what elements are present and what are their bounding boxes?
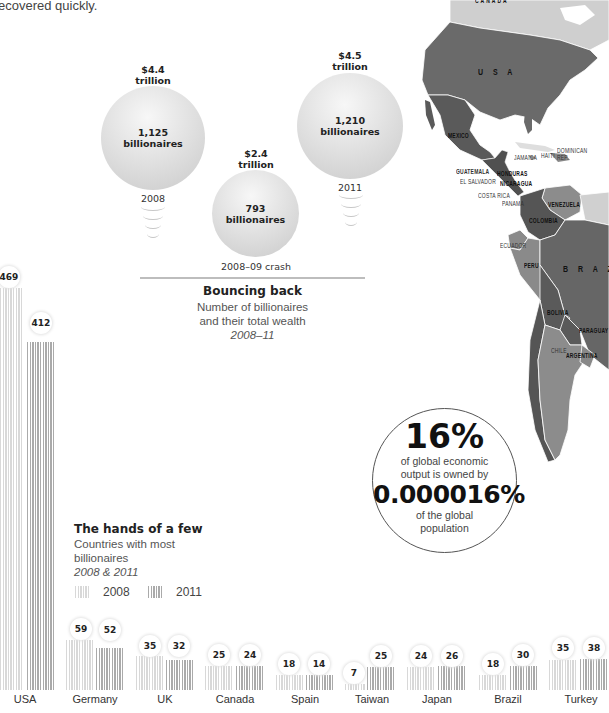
bar-canada-2008 (205, 666, 232, 690)
bubble-2011: 1,210 billionaires (297, 73, 403, 179)
bar-uk-2008 (136, 656, 163, 690)
map-label-brazil: B R A Z I L (563, 264, 609, 273)
badge-uk-2008: 35 (139, 635, 161, 657)
bar-turkey-2008 (549, 660, 576, 690)
label-brazil: Brazil (486, 693, 530, 705)
map-label-jamaica: JAMAICA (514, 153, 537, 161)
bouncing-back-caption: Bouncing back Number of billionaires and… (140, 284, 365, 342)
map-label-costa-rica: COSTA RICA (478, 191, 510, 199)
bubble-2008-wealth: $4.4 trillion (113, 64, 193, 86)
badge-usa-2008: 469 (0, 266, 20, 288)
bar-usa-2008 (0, 288, 22, 690)
badge-canada-2011: 24 (239, 644, 261, 666)
badge-japan-2011: 26 (441, 645, 463, 667)
bar-spain-2011 (306, 675, 333, 690)
map-label-panama: PANAMA (502, 199, 524, 207)
hands-caption: The hands of a few Countries with most b… (74, 522, 203, 579)
map-label-venezuela: VENEZUELA (548, 200, 580, 208)
badge-brazil-2011: 30 (512, 644, 534, 666)
map-label-el-salvador: EL SALVADOR (460, 177, 496, 185)
label-taiwan: Taiwan (350, 693, 394, 705)
map-label-haiti: HAITI (541, 151, 555, 159)
map-label-colombia: COLOMBIA (529, 216, 558, 224)
bar-taiwan-2008 (345, 684, 365, 690)
badge-germany-2011: 52 (99, 619, 121, 641)
badge-japan-2008: 24 (410, 645, 432, 667)
people-2008-icon (75, 586, 89, 598)
bar-canada-2011 (236, 666, 263, 690)
bar-japan-2011 (438, 666, 465, 690)
badge-spain-2008: 18 (278, 653, 300, 675)
map-label-dominican-rep: DOMINICAN REP. (557, 146, 587, 162)
bouncing-back-title: Bouncing back (140, 284, 365, 298)
label-canada: Canada (210, 693, 260, 705)
bubble-crash-year: 2008–09 crash (206, 261, 306, 272)
map-label-nicaragua: NICARAGUA (500, 179, 532, 187)
legend-2008: 2008 (75, 585, 130, 599)
intro-text: ecovered quickly. (0, 0, 97, 13)
bar-uk-2011 (166, 660, 193, 690)
badge-canada-2008: 25 (208, 644, 230, 666)
label-turkey: Turkey (556, 693, 606, 705)
bubble-crash: 793 billionaires (212, 170, 299, 257)
label-germany: Germany (66, 693, 124, 705)
map-label-argentina: ARGENTINA (566, 351, 598, 359)
bar-brazil-2008 (479, 675, 506, 690)
label-japan: Japan (415, 693, 459, 705)
label-usa: USA (0, 693, 50, 705)
baseline-divider (140, 277, 365, 279)
ripple-icon (141, 203, 165, 239)
legend-2011: 2011 (148, 585, 202, 599)
bar-turkey-2011 (580, 659, 607, 690)
bar-germany-2008 (66, 640, 93, 690)
stat-percent-population: 0.000016% (373, 481, 516, 509)
badge-brazil-2008: 18 (482, 653, 504, 675)
map-label-peru: PERU (524, 261, 539, 269)
badge-usa-2011: 412 (30, 312, 52, 334)
wealth-concentration-stat: 16% of global economic output is owned b… (372, 408, 517, 553)
bubble-crash-wealth: $2.4 trillion (216, 148, 296, 170)
badge-turkey-2011: 38 (583, 637, 605, 659)
map-label-canada: CANADA (475, 0, 509, 4)
label-uk: UK (145, 693, 185, 705)
americas-map: CANADA U S A MEXICO GUATEMALA HONDURAS E… (420, 0, 609, 470)
badge-germany-2008: 59 (70, 618, 92, 640)
bar-germany-2011 (96, 648, 123, 690)
bar-spain-2008 (276, 675, 303, 690)
people-2011-icon (148, 586, 162, 598)
bar-taiwan-2011 (367, 667, 394, 690)
map-label-usa: U S A (478, 67, 516, 76)
label-spain: Spain (283, 693, 327, 705)
bar-japan-2008 (407, 667, 434, 690)
bubble-2011-wealth: $4.5 trillion (310, 50, 390, 72)
badge-uk-2011: 32 (168, 635, 190, 657)
map-label-guatemala: GUATEMALA (456, 167, 489, 175)
map-label-paraguay: PARAGUAY (579, 326, 608, 334)
stat-percent-output: 16% (373, 419, 516, 455)
badge-spain-2011: 14 (308, 653, 330, 675)
map-label-honduras: HONDURAS (497, 169, 528, 177)
hands-title: The hands of a few (74, 522, 203, 536)
badge-taiwan-2008: 7 (343, 662, 365, 684)
bubble-2008: 1,125 billionaires (101, 86, 205, 190)
bar-usa-2011 (27, 342, 54, 690)
ripple-icon (339, 191, 363, 227)
badge-turkey-2008: 35 (552, 637, 574, 659)
map-label-chile: CHILE (551, 346, 567, 354)
bar-brazil-2011 (510, 666, 537, 690)
badge-taiwan-2011: 25 (370, 645, 392, 667)
map-label-mexico: MEXICO (448, 131, 469, 139)
map-label-bolivia: BOLIVIA (547, 308, 569, 316)
map-label-ecuador: ECUADOR (500, 241, 526, 249)
